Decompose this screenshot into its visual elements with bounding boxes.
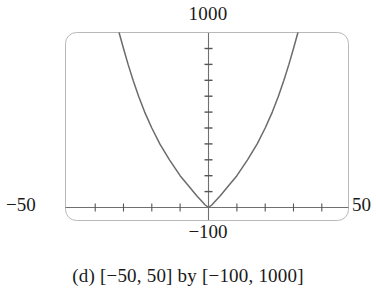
figure-caption: (d) [−50, 50] by [−100, 1000] xyxy=(0,263,376,289)
plot-area xyxy=(0,0,376,298)
graphing-window-figure: 1000 −50 50 −100 xyxy=(0,0,376,298)
